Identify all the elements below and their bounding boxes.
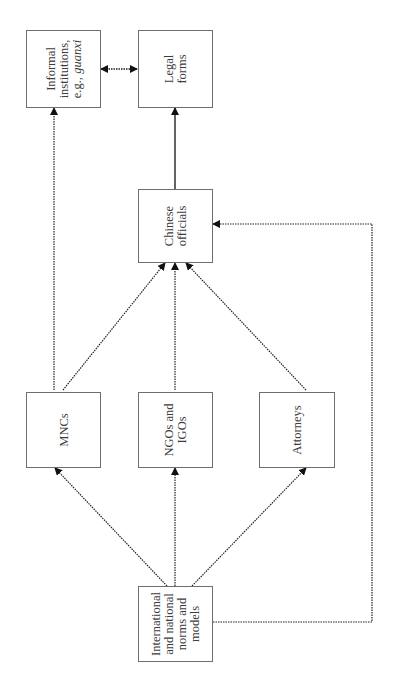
node-label: Chinese officials	[163, 206, 189, 247]
node-ngos-igos: NGOs and IGOs	[138, 392, 213, 468]
edge-international-mncs	[55, 468, 167, 586]
node-attorneys: Attorneys	[259, 392, 335, 468]
node-label: Attorneys	[291, 405, 304, 454]
node-label: Informal institutions, e.g., guanxi	[44, 40, 83, 99]
node-label: NGOs and IGOs	[163, 403, 189, 456]
node-label: Legal forms	[163, 54, 189, 83]
node-label: International and national norms and mod…	[150, 592, 202, 656]
edge-mncs-officials	[63, 263, 165, 390]
edge-international-attorneys	[192, 468, 306, 586]
node-label: MNCs	[57, 413, 70, 446]
node-legal-forms: Legal forms	[138, 30, 213, 108]
node-informal-institutions: Informal institutions, e.g., guanxi	[26, 30, 101, 108]
node-international-norms: International and national norms and mod…	[138, 586, 213, 662]
node-chinese-officials: Chinese officials	[138, 189, 213, 263]
node-mncs: MNCs	[26, 392, 101, 468]
edge-attorneys-officials	[186, 263, 306, 390]
diagram-canvas: Informal institutions, e.g., guanxi Lega…	[0, 0, 395, 681]
